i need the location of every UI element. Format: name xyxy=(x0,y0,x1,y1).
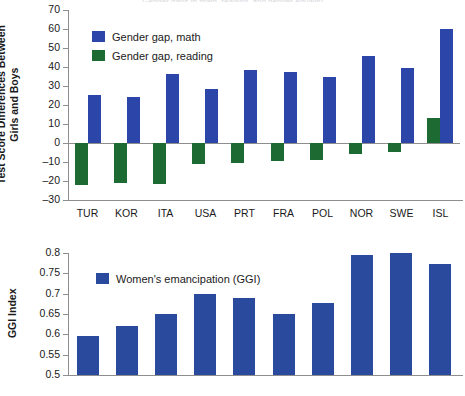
bar-usa-ggi xyxy=(194,294,216,375)
bar-ita-math xyxy=(166,74,179,143)
x-tick-label-tur: TUR xyxy=(68,208,107,219)
bar-prt-reading xyxy=(231,143,244,163)
y-tick-label: 0.75 xyxy=(22,267,60,278)
legend-item-reading[interactable]: Gender gap, reading xyxy=(92,46,213,61)
bar-tur-reading xyxy=(75,143,88,185)
bar-tur-ggi xyxy=(77,336,99,375)
bar-prt-math xyxy=(244,70,257,143)
bar-pol-ggi xyxy=(312,303,334,375)
figure-title-clipped: Gender gaps in math, reading, and gender… xyxy=(0,0,465,2)
x-tick-label-swe: SWE xyxy=(382,208,421,219)
legend-swatch-ggi-icon xyxy=(96,273,109,284)
y-axis-label-top: Test Score Differences Between Girls and… xyxy=(0,10,21,200)
x-tick-label-isl: ISL xyxy=(421,208,460,219)
x-tick-label-usa: USA xyxy=(186,208,225,219)
bar-ita-reading xyxy=(153,143,166,184)
bar-swe-ggi xyxy=(390,253,412,375)
figure-root: Gender gaps in math, reading, and gender… xyxy=(0,0,465,396)
y-tick-label: 0.5 xyxy=(22,369,60,380)
y-tick-label: 0.55 xyxy=(22,349,60,360)
x-tick-label-nor: NOR xyxy=(342,208,381,219)
bar-swe-math xyxy=(401,68,414,143)
legend-swatch-math-icon xyxy=(92,31,105,42)
bar-swe-reading xyxy=(388,143,401,152)
bar-fra-ggi xyxy=(273,314,295,375)
bar-nor-ggi xyxy=(351,255,373,375)
x-axis-spine xyxy=(68,200,463,201)
x-tick-label-ita: ITA xyxy=(146,208,185,219)
bar-prt-ggi xyxy=(233,298,255,375)
y-tick-label: –30 xyxy=(22,194,60,205)
bar-ita-ggi xyxy=(155,314,177,375)
y-tick-label: 0.6 xyxy=(22,328,60,339)
legend-item-math[interactable]: Gender gap, math xyxy=(92,27,213,42)
y-tick-label: –10 xyxy=(22,156,60,167)
y-tick-label: 0.7 xyxy=(22,288,60,299)
y-tick-label: 40 xyxy=(22,61,60,72)
y-tick-label: 20 xyxy=(22,99,60,110)
bar-nor-math xyxy=(362,56,375,143)
y-tick-label: 10 xyxy=(22,118,60,129)
bar-fra-math xyxy=(284,72,297,143)
bar-nor-reading xyxy=(349,143,362,154)
y-tick-label: 60 xyxy=(22,23,60,34)
bar-isl-reading xyxy=(427,118,440,143)
x-tick-label-prt: PRT xyxy=(225,208,264,219)
bar-usa-reading xyxy=(192,143,205,164)
bar-tur-math xyxy=(88,95,101,143)
y-tick-label: 50 xyxy=(22,42,60,53)
legend-bottom: Women's emancipation (GGI) xyxy=(96,269,260,288)
x-tick-label-fra: FRA xyxy=(264,208,303,219)
bar-kor-reading xyxy=(114,143,127,183)
y-tick-label: 70 xyxy=(22,4,60,15)
y-tick-label: 0.8 xyxy=(22,247,60,258)
x-axis-spine xyxy=(68,375,463,376)
y-tick-label: 30 xyxy=(22,80,60,91)
bar-isl-math xyxy=(440,29,453,143)
x-tick-label-kor: KOR xyxy=(107,208,146,219)
bar-pol-reading xyxy=(310,143,323,160)
bar-kor-ggi xyxy=(116,326,138,375)
bar-pol-math xyxy=(323,77,336,143)
legend-item-ggi[interactable]: Women's emancipation (GGI) xyxy=(96,269,260,284)
x-tick-label-pol: POL xyxy=(303,208,342,219)
legend-swatch-reading-icon xyxy=(92,50,105,61)
y-tick-label: 0 xyxy=(22,137,60,148)
bar-usa-math xyxy=(205,89,218,143)
y-tick-label: 0.65 xyxy=(22,308,60,319)
y-axis-label-bottom: GGI Index xyxy=(6,252,19,374)
bar-isl-ggi xyxy=(429,264,451,375)
legend-label-math: Gender gap, math xyxy=(112,31,201,43)
legend-label-ggi: Women's emancipation (GGI) xyxy=(116,273,260,285)
legend-label-reading: Gender gap, reading xyxy=(112,50,213,62)
legend-top: Gender gap, math Gender gap, reading xyxy=(92,27,213,65)
bar-fra-reading xyxy=(271,143,284,161)
bar-kor-math xyxy=(127,97,140,143)
y-tick-label: –20 xyxy=(22,175,60,186)
